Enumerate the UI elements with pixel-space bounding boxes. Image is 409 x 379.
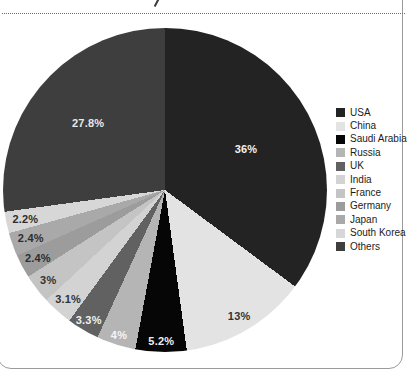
legend-swatch-icon bbox=[336, 108, 345, 117]
slice-label-uk: 3.3% bbox=[76, 314, 102, 326]
legend-item-uk: UK bbox=[336, 160, 407, 173]
legend-label: France bbox=[350, 188, 381, 198]
slice-label-japan: 2.4% bbox=[18, 232, 44, 244]
legend-label: UK bbox=[350, 161, 364, 171]
legend-label: India bbox=[350, 175, 372, 185]
legend-swatch-icon bbox=[336, 189, 345, 198]
legend-item-russia: Russia bbox=[336, 146, 407, 159]
slice-label-china: 13% bbox=[228, 310, 251, 322]
slice-label-india: 3.1% bbox=[55, 293, 81, 305]
legend-item-france: France bbox=[336, 186, 407, 199]
legend-label: Others bbox=[350, 242, 380, 252]
slice-label-saudi-arabia: 5.2% bbox=[148, 335, 174, 347]
legend-item-south-korea: South Korea bbox=[336, 227, 407, 240]
legend-label: Germany bbox=[350, 201, 391, 211]
legend-item-others: Others bbox=[336, 240, 407, 253]
legend-label: Russia bbox=[350, 148, 381, 158]
legend-item-india: India bbox=[336, 173, 407, 186]
legend-label: USA bbox=[350, 108, 371, 118]
legend-swatch-icon bbox=[336, 202, 345, 211]
legend-swatch-icon bbox=[336, 135, 345, 144]
slice-label-france: 3% bbox=[40, 274, 56, 286]
legend-swatch-icon bbox=[336, 148, 345, 157]
legend-swatch-icon bbox=[336, 229, 345, 238]
dotted-separator bbox=[2, 13, 405, 14]
legend-item-japan: Japan bbox=[336, 213, 407, 226]
legend-swatch-icon bbox=[336, 215, 345, 224]
legend-item-usa: USA bbox=[336, 106, 407, 119]
legend-item-saudi-arabia: Saudi Arabia bbox=[336, 133, 407, 146]
legend-swatch-icon bbox=[336, 242, 345, 251]
slice-label-usa: 36% bbox=[235, 143, 258, 155]
legend-swatch-icon bbox=[336, 162, 345, 171]
legend-label: Saudi Arabia bbox=[350, 134, 407, 144]
legend-label: South Korea bbox=[350, 228, 406, 238]
legend-swatch-icon bbox=[336, 122, 345, 131]
stray-mark bbox=[154, 0, 160, 7]
slice-label-russia: 4% bbox=[111, 329, 127, 341]
legend-swatch-icon bbox=[336, 175, 345, 184]
legend-item-germany: Germany bbox=[336, 200, 407, 213]
legend: USAChinaSaudi ArabiaRussiaUKIndiaFranceG… bbox=[336, 106, 407, 253]
pie-chart: 36%13%5.2%4%3.3%3.1%3%2.4%2.4%2.2%27.8% bbox=[3, 28, 327, 352]
legend-label: Japan bbox=[350, 215, 377, 225]
legend-item-china: China bbox=[336, 119, 407, 132]
legend-label: China bbox=[350, 121, 376, 131]
slice-label-others: 27.8% bbox=[72, 117, 104, 129]
slice-label-south-korea: 2.2% bbox=[12, 213, 38, 225]
slice-label-germany: 2.4% bbox=[25, 252, 51, 264]
